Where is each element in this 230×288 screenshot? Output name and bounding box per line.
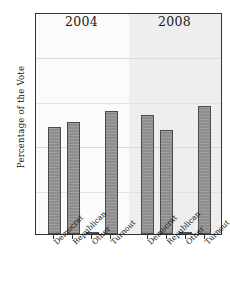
gridline-40 xyxy=(36,147,221,148)
bar-2004-democrat xyxy=(48,127,61,234)
bar-2008-democrat xyxy=(141,115,154,234)
gridline-20 xyxy=(36,192,221,193)
y-axis-title: Percentage of the Vote xyxy=(16,42,26,192)
bar-chart: Percentage of the Vote 2004 2008 0204060… xyxy=(0,0,230,288)
gridline-80 xyxy=(36,58,221,59)
panel-label-2004: 2004 xyxy=(35,14,128,29)
gridline-60 xyxy=(36,103,221,104)
plot-area xyxy=(35,13,222,235)
panel-label-2008: 2008 xyxy=(128,14,221,29)
